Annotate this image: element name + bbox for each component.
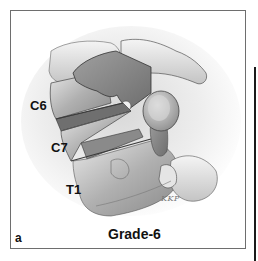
panel-letter: a xyxy=(15,232,22,244)
vertebrae-illustration xyxy=(11,11,246,249)
label-c6: C6 xyxy=(30,99,47,112)
label-t1: T1 xyxy=(66,183,81,196)
adjacent-panel-edge xyxy=(254,67,256,261)
label-c7: C7 xyxy=(51,141,68,154)
figure-caption: Grade-6 xyxy=(108,227,161,241)
figure-frame: C6 C7 T1 KKP a Grade-6 xyxy=(10,10,246,249)
artist-signature: KKP xyxy=(161,194,180,203)
